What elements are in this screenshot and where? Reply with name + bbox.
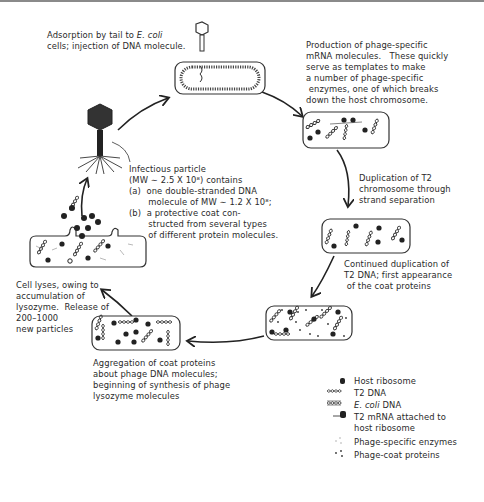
t2-mrna-ribosome-icon	[333, 411, 346, 418]
label-aggregation: Aggregation of coat proteins about phage…	[93, 358, 230, 402]
legend-label-host-ribosome: Host ribosome	[354, 376, 416, 387]
legend-label-ecoli-dna: E. coli DNA	[354, 400, 401, 411]
cell-adsorption	[175, 22, 265, 94]
legend-label-t2-mrna: T2 mRNA attached to host ribosome	[354, 412, 446, 434]
arrow-infect-to-adsorb	[118, 98, 168, 130]
label-adsorption: Adsorption by tail to E. coli cells; inj…	[47, 30, 186, 52]
host-ribosome-icon	[340, 378, 345, 384]
legend-label-phage-enzymes: Phage-specific enzymes	[354, 437, 457, 448]
arrow-mrna-to-dup	[337, 150, 349, 206]
ecoli-dna-icon	[327, 401, 341, 405]
arrow-dup-to-cont	[312, 256, 334, 296]
phage-enzymes-icon	[335, 437, 342, 444]
phage-coat-icon	[335, 450, 343, 457]
arrow-lysis-to-infect	[82, 179, 87, 216]
legend-label-t2-dna: T2 DNA	[354, 388, 386, 399]
label-lysis: Cell lyses, owing to accumulation of lys…	[16, 280, 109, 335]
cell-duplication	[322, 219, 410, 253]
cell-mrna	[303, 112, 389, 148]
label-mrna: Production of phage-specific mRNA molecu…	[306, 40, 448, 106]
arrow-cont-to-agg	[188, 336, 264, 342]
arrow-adsorb-to-mrna	[262, 92, 302, 116]
cell-continued	[266, 305, 352, 340]
label-duplication: Duplication of T2 chromosome through str…	[359, 173, 451, 206]
infectious-phage-icon	[78, 104, 130, 174]
label-continued: Continued duplication of T2 DNA; first a…	[344, 259, 452, 292]
legend-icons	[327, 378, 346, 457]
label-infectious-particle: Infectious particle (MW ∼ 2.5 X 10⁸) con…	[129, 164, 278, 241]
legend-label-phage-coat: Phage-coat proteins	[354, 450, 440, 461]
t2-dna-icon	[327, 390, 341, 393]
